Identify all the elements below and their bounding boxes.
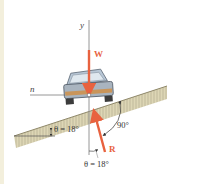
incline-angle-label: θ = 18° — [54, 124, 79, 134]
center-of-gravity-point — [87, 93, 91, 97]
free-body-diagram: y n W R θ = 18° θ = 18° 90° — [0, 0, 206, 184]
y-axis-label: y — [79, 20, 84, 30]
n-axis-label: n — [30, 84, 35, 94]
reaction-label: R — [109, 144, 116, 154]
reaction-angle-label: θ = 18° — [84, 159, 109, 169]
right-angle-label: 90° — [117, 120, 129, 130]
weight-label: W — [94, 49, 103, 59]
